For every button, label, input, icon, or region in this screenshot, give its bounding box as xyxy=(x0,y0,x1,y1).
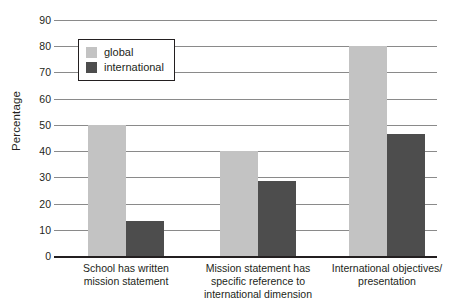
category-label-line: International objectives/ xyxy=(312,262,451,275)
bar-chart: Percentage 0102030405060708090 School ha… xyxy=(0,0,451,308)
y-axis-tick-label: 80 xyxy=(25,41,51,51)
y-axis-tick-label: 30 xyxy=(25,172,51,182)
bar-international-0 xyxy=(126,221,164,256)
legend-swatch-international-icon xyxy=(86,62,97,73)
category-label-0: School has writtenmission statement xyxy=(51,262,201,288)
bar-international-2 xyxy=(387,134,425,256)
y-axis-tick-label: 70 xyxy=(25,67,51,77)
y-axis-tick xyxy=(54,204,59,205)
bar-global-0 xyxy=(88,125,126,256)
category-label-line: specific reference to xyxy=(183,275,333,288)
legend-item-global: global xyxy=(86,45,164,60)
bar-global-1 xyxy=(220,151,258,256)
x-axis-origin-tick xyxy=(54,256,59,258)
y-axis-tick-label: 60 xyxy=(25,94,51,104)
category-label-line: presentation xyxy=(312,275,451,288)
category-label-line: international dimension xyxy=(183,288,333,301)
chart-legend: global international xyxy=(78,39,175,81)
y-axis-tick xyxy=(54,99,59,100)
y-axis-tick xyxy=(54,230,59,231)
y-axis-tick xyxy=(54,125,59,126)
y-axis-tick-label: 90 xyxy=(25,15,51,25)
category-label-1: Mission statement hasspecific reference … xyxy=(183,262,333,301)
y-axis-tick-label: 10 xyxy=(25,225,51,235)
y-axis-tick-label: 50 xyxy=(25,120,51,130)
y-axis-tick-label: 40 xyxy=(25,146,51,156)
category-label-line: School has written xyxy=(51,262,201,275)
legend-swatch-global-icon xyxy=(86,47,97,58)
y-axis-tick-label: 0 xyxy=(25,251,51,261)
legend-label-international: international xyxy=(104,62,164,73)
x-axis-line xyxy=(59,256,437,258)
category-label-line: mission statement xyxy=(51,275,201,288)
y-axis-tick xyxy=(54,46,59,47)
y-axis-tick xyxy=(54,177,59,178)
gridline xyxy=(59,20,437,21)
legend-label-global: global xyxy=(104,47,133,58)
y-axis-tick-label: 20 xyxy=(25,199,51,209)
category-label-line: Mission statement has xyxy=(183,262,333,275)
y-axis-tick xyxy=(54,20,59,21)
bar-global-2 xyxy=(349,46,387,256)
y-axis-title: Percentage xyxy=(10,76,22,166)
bar-international-1 xyxy=(258,181,296,256)
category-label-2: International objectives/presentation xyxy=(312,262,451,288)
legend-item-international: international xyxy=(86,60,164,75)
y-axis-tick xyxy=(54,151,59,152)
y-axis-tick xyxy=(54,72,59,73)
